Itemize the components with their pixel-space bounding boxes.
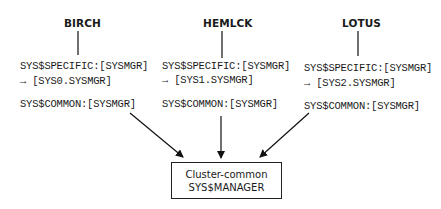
lotus-root: [SYS2.SYSMGR]: [316, 77, 395, 89]
hemlck-root-line: → [SYS1.SYSMGR]: [162, 74, 254, 86]
node-label-birch: BIRCH: [64, 17, 101, 29]
birch-common: SYS$COMMON:[SYSMGR]: [20, 98, 136, 110]
cluster-common-box: Cluster-common SYS$MANAGER: [171, 162, 282, 199]
birch-root-line: → [SYS0.SYSMGR]: [20, 75, 112, 87]
lotus-specific: SYS$SPECIFIC:[SYSMGR]: [304, 62, 432, 74]
hemlck-specific: SYS$SPECIFIC:[SYSMGR]: [162, 60, 290, 72]
arrow-glyph: →: [304, 77, 310, 89]
lotus-arrow: [260, 113, 309, 157]
box-line2: SYS$MANAGER: [189, 181, 265, 194]
hemlck-root: [SYS1.SYSMGR]: [174, 74, 253, 86]
birch-specific: SYS$SPECIFIC:[SYSMGR]: [20, 60, 148, 72]
lotus-common: SYS$COMMON:[SYSMGR]: [304, 100, 420, 112]
birch-arrow: [130, 113, 183, 157]
node-label-hemlck: HEMLCK: [203, 17, 253, 29]
hemlck-common: SYS$COMMON:[SYSMGR]: [162, 98, 278, 110]
node-label-lotus: LOTUS: [342, 17, 381, 29]
birch-root: [SYS0.SYSMGR]: [32, 75, 111, 87]
arrow-glyph: →: [162, 74, 168, 86]
lotus-root-line: → [SYS2.SYSMGR]: [304, 77, 396, 89]
box-line1: Cluster-common: [185, 168, 267, 181]
arrow-glyph: →: [20, 75, 26, 87]
